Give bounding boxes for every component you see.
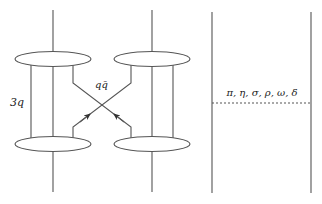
arrow-left-icon [80,114,90,122]
three-quark-label: 3q [10,96,24,109]
baryon-blob-top-right [114,52,190,67]
baryon-blob-bottom-right [114,137,190,152]
exchange-line-2 [73,65,131,138]
quark-exchange-diagram: 3q qq̄ π, η, σ, ρ, ω, δ [0,0,322,204]
meson-list-label: π, η, σ, ρ, ω, δ [225,87,297,98]
arrow-right-icon [114,114,124,122]
quark-antiquark-label: qq̄ [95,79,108,90]
baryon-blob-top-left [15,52,91,67]
baryon-blob-bottom-left [15,137,91,152]
exchange-line-1 [73,65,131,138]
